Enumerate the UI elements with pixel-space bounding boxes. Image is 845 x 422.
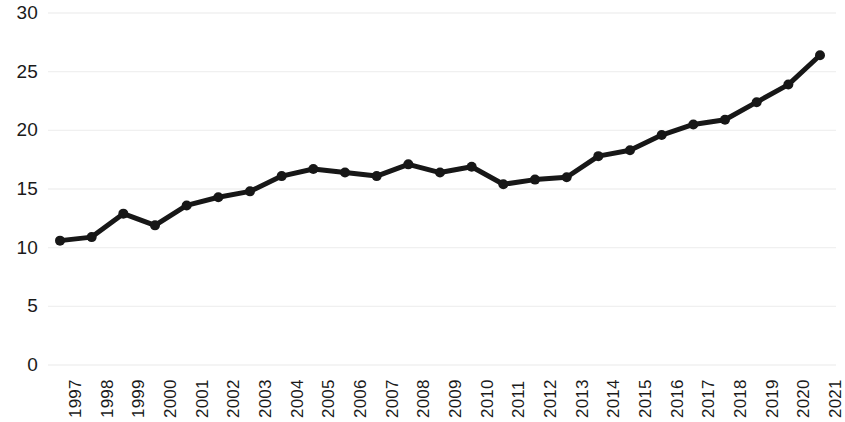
- x-axis-tick-label: 1999: [130, 379, 147, 418]
- y-axis-tick-label: 5: [2, 296, 38, 315]
- data-point-marker: [720, 115, 730, 125]
- y-axis-tick-label: 0: [2, 355, 38, 374]
- data-point-marker: [562, 172, 572, 182]
- x-axis-tick-label: 2009: [447, 379, 464, 418]
- x-axis-tick-label: 2016: [669, 379, 686, 418]
- x-axis-tick-label: 2010: [479, 379, 496, 418]
- x-axis-tick-label: 2011: [510, 381, 527, 418]
- data-point-marker: [308, 164, 318, 174]
- data-point-marker: [815, 50, 825, 60]
- x-axis-tick-label: 2008: [415, 379, 432, 418]
- x-axis-tick-label: 2004: [289, 379, 306, 418]
- x-axis-tick-label: 2018: [732, 379, 749, 418]
- x-axis-tick-label: 2003: [257, 379, 274, 418]
- data-point-marker: [688, 119, 698, 129]
- data-point-marker: [245, 186, 255, 196]
- data-point-marker: [593, 151, 603, 161]
- gridlines-group: [48, 13, 836, 365]
- data-series-line: [60, 55, 820, 240]
- y-axis-tick-label: 20: [2, 120, 38, 139]
- data-point-marker: [277, 171, 287, 181]
- x-axis-tick-label: 1997: [67, 379, 84, 418]
- x-axis-tick-label: 2001: [194, 379, 211, 418]
- data-point-marker: [87, 232, 97, 242]
- x-axis-tick-label: 2020: [795, 379, 812, 418]
- x-axis-tick-label: 2013: [574, 379, 591, 418]
- x-axis-tick-label: 2002: [225, 379, 242, 418]
- data-point-marker: [467, 162, 477, 172]
- data-point-marker: [498, 179, 508, 189]
- data-point-marker: [182, 200, 192, 210]
- data-point-marker: [625, 145, 635, 155]
- data-point-marker: [403, 159, 413, 169]
- x-axis-tick-label: 2019: [764, 379, 781, 418]
- y-axis-tick-label: 15: [2, 179, 38, 198]
- x-axis-tick-label: 2014: [605, 379, 622, 418]
- data-point-marker: [340, 168, 350, 178]
- data-point-marker: [55, 236, 65, 246]
- data-point-marker: [530, 175, 540, 185]
- x-axis-tick-label: 1998: [99, 379, 116, 418]
- data-point-marker: [118, 209, 128, 219]
- y-axis-tick-label: 10: [2, 238, 38, 257]
- x-axis-tick-label: 2005: [320, 379, 337, 418]
- x-axis-tick-label: 2015: [637, 379, 654, 418]
- data-point-marker: [783, 80, 793, 90]
- data-point-marker: [372, 171, 382, 181]
- data-point-marker: [150, 220, 160, 230]
- data-point-marker: [435, 168, 445, 178]
- x-axis-tick-label: 2012: [542, 379, 559, 418]
- data-point-marker: [657, 130, 667, 140]
- y-axis-tick-label: 25: [2, 62, 38, 81]
- x-axis-tick-label: 2021: [827, 379, 844, 418]
- x-axis-tick-label: 2000: [162, 379, 179, 418]
- x-axis-tick-label: 2007: [384, 379, 401, 418]
- data-point-marker: [213, 192, 223, 202]
- y-axis-tick-label: 30: [2, 3, 38, 22]
- x-axis-tick-label: 2006: [352, 379, 369, 418]
- data-point-marker: [752, 97, 762, 107]
- x-axis-tick-label: 2017: [700, 379, 717, 418]
